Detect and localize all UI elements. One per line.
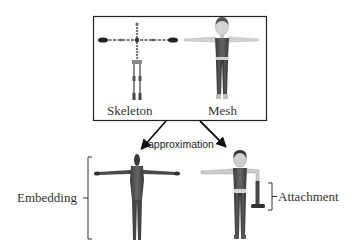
skeleton-label: Skeleton bbox=[107, 104, 153, 117]
figure-graphics bbox=[0, 0, 361, 252]
attachment-label: Attachment bbox=[278, 190, 339, 203]
embedding-figure bbox=[94, 154, 180, 240]
figure-canvas: Skeleton Mesh approximation Embedding At… bbox=[0, 0, 361, 252]
attachment-bracket bbox=[268, 183, 277, 210]
mesh-figure bbox=[184, 17, 258, 99]
mesh-label: Mesh bbox=[208, 104, 237, 117]
approximation-label: approximation bbox=[148, 139, 214, 150]
attachment-figure bbox=[201, 150, 265, 239]
embedding-label: Embedding bbox=[17, 191, 77, 204]
skeleton-figure bbox=[98, 22, 178, 100]
embedding-bracket bbox=[83, 157, 92, 239]
